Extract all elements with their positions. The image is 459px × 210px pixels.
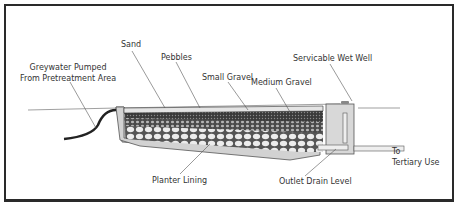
tertiary-line1: To	[392, 146, 440, 157]
tertiary-line2: Tertiary Use	[392, 157, 440, 168]
inlet-line1: Greywater Pumped	[20, 62, 116, 73]
inlet-line2: From Pretreatment Area	[20, 73, 116, 84]
label-planter-lining: Planter Lining	[152, 175, 207, 186]
label-tertiary-use: To Tertiary Use	[392, 146, 440, 168]
label-pebbles: Pebbles	[161, 52, 192, 63]
planter-cross-section	[0, 0, 459, 210]
label-sand: Sand	[121, 39, 141, 50]
label-small-gravel: Small Gravel	[202, 72, 253, 83]
label-medium-gravel: Medium Gravel	[251, 77, 312, 88]
label-outlet-drain: Outlet Drain Level	[279, 176, 352, 187]
inlet-hose	[64, 110, 116, 139]
label-wet-well: Servicable Wet Well	[293, 53, 372, 64]
label-greywater-inlet: Greywater Pumped From Pretreatment Area	[20, 62, 116, 84]
